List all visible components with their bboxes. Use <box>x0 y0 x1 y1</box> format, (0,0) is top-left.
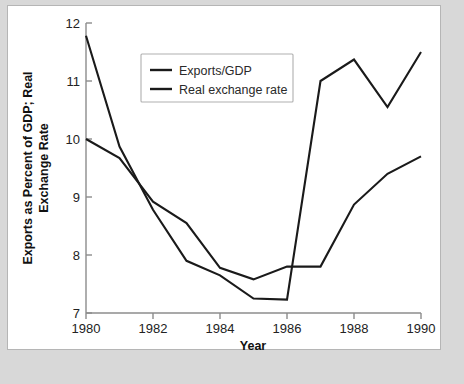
y-axis-title-line1: Exports as Percent of GDP; Real <box>21 71 35 264</box>
y-tick-label: 8 <box>73 248 80 263</box>
y-tick-label: 12 <box>66 16 80 31</box>
chart-plot-area: 12 11 10 9 8 7 1980 1982 1984 <box>8 6 442 351</box>
y-tick-label: 11 <box>67 74 81 89</box>
x-axis-tick-labels: 1980 1982 1984 1986 1988 1990 <box>72 321 436 336</box>
y-tick-label: 10 <box>66 132 80 147</box>
x-tick-label: 1982 <box>139 321 168 336</box>
x-tick-label: 1988 <box>340 321 369 336</box>
series-line-exports-gdp <box>86 139 421 279</box>
legend-label-real-exchange-rate: Real exchange rate <box>179 83 287 97</box>
x-tick-label: 1984 <box>206 321 235 336</box>
x-tick-label: 1990 <box>407 321 436 336</box>
x-axis-ticks <box>86 313 421 319</box>
y-tick-label: 7 <box>73 306 80 321</box>
y-tick-label: 9 <box>73 190 80 205</box>
legend-label-exports-gdp: Exports/GDP <box>179 64 252 78</box>
y-axis-tick-labels: 12 11 10 9 8 7 <box>66 16 80 321</box>
figure-frame: 12 11 10 9 8 7 1980 1982 1984 <box>7 5 441 350</box>
x-tick-label: 1980 <box>72 321 101 336</box>
legend: Exports/GDP Real exchange rate <box>141 54 293 102</box>
y-axis-ticks <box>86 23 92 313</box>
y-axis-title-line2: Exchange Rate <box>37 123 51 213</box>
x-tick-label: 1986 <box>273 321 302 336</box>
y-axis-title: Exports as Percent of GDP; Real Exchange… <box>21 71 51 264</box>
x-axis-title: Year <box>240 339 267 351</box>
line-chart: 12 11 10 9 8 7 1980 1982 1984 <box>8 6 442 351</box>
